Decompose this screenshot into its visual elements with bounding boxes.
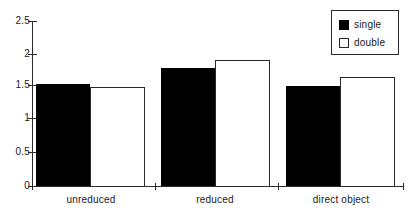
legend-swatch-icon-single xyxy=(339,20,349,30)
y-axis-label-1-5: 1.5 xyxy=(0,80,30,90)
bar-unreduced-single xyxy=(36,84,90,187)
legend-swatch-icon-double xyxy=(339,38,349,48)
legend-label-double: double xyxy=(354,38,385,48)
legend-label-single: single xyxy=(354,20,381,30)
x-axis-tick xyxy=(278,183,279,190)
y-axis-label-1: 1 xyxy=(0,113,30,123)
x-axis-label-unreduced: unreduced xyxy=(36,194,146,205)
y-axis-line xyxy=(32,21,33,186)
x-axis-tick xyxy=(403,183,404,190)
bar-reduced-single xyxy=(161,68,215,187)
bar-direct-object-single xyxy=(286,86,340,187)
bar-direct-object-double xyxy=(340,77,395,187)
y-axis-label-2: 2 xyxy=(0,49,30,59)
x-axis-label-reduced: reduced xyxy=(160,194,270,205)
bar-reduced-double xyxy=(215,60,270,187)
legend-item-double: double xyxy=(339,35,398,51)
y-axis-label-2-5: 2.5 xyxy=(0,16,30,26)
x-axis-label-direct-object: direct object xyxy=(285,194,397,205)
bar-chart: 2.5 2 1.5 1 0.5 0 unreduced reduced dire… xyxy=(0,0,409,213)
x-axis-line xyxy=(32,186,404,187)
bar-unreduced-double xyxy=(90,87,145,187)
y-axis-label-0-5: 0.5 xyxy=(0,147,30,157)
legend-item-single: single xyxy=(339,17,398,33)
x-axis-tick xyxy=(32,183,33,190)
y-axis-label-0: 0 xyxy=(0,181,30,191)
chart-legend: single double xyxy=(331,10,399,55)
x-axis-tick xyxy=(155,183,156,190)
